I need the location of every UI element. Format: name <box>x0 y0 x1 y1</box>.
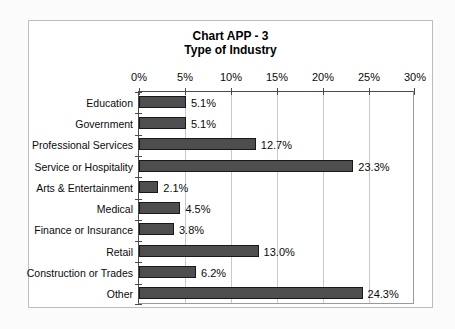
x-axis-tick-label: 10% <box>220 71 242 83</box>
gridline-15% <box>277 92 278 303</box>
y-tick-mark <box>135 220 142 221</box>
x-tick-mark <box>369 88 370 95</box>
scanned-page: Chart APP - 3 Type of Industry 0%5%10%15… <box>0 0 455 329</box>
y-tick-mark <box>135 284 142 285</box>
y-tick-mark <box>135 262 142 263</box>
x-axis-tick-label: 25% <box>358 71 380 83</box>
x-axis-tick-label: 30% <box>404 71 426 83</box>
y-tick-mark <box>135 92 142 93</box>
category-label: Government <box>24 113 133 134</box>
x-axis-tick-label: 0% <box>131 71 147 83</box>
x-tick-mark <box>231 88 232 95</box>
plot-area: 0%5%10%15%20%25%30%Education5.1%Governme… <box>138 91 414 304</box>
value-label: 6.2% <box>201 262 226 283</box>
chart-title: Chart APP - 3 <box>29 29 432 43</box>
y-tick-mark <box>135 304 142 305</box>
category-label: Finance or Insurance <box>24 220 133 241</box>
value-label: 5.1% <box>191 92 216 113</box>
x-axis-tick-label: 15% <box>266 71 288 83</box>
bar <box>139 202 180 214</box>
bar <box>139 287 363 299</box>
x-tick-mark <box>414 88 415 95</box>
x-tick-mark <box>185 88 186 95</box>
y-tick-mark <box>135 241 142 242</box>
value-label: 24.3% <box>368 284 399 305</box>
value-label: 5.1% <box>191 113 216 134</box>
bar <box>139 138 256 150</box>
chart-frame: Chart APP - 3 Type of Industry 0%5%10%15… <box>28 20 433 308</box>
bar <box>139 96 186 108</box>
value-label: 12.7% <box>261 135 292 156</box>
y-tick-mark <box>135 156 142 157</box>
bar <box>139 223 174 235</box>
value-label: 23.3% <box>358 156 389 177</box>
value-label: 13.0% <box>264 241 295 262</box>
x-tick-mark <box>277 88 278 95</box>
x-axis-tick-label: 5% <box>177 71 193 83</box>
gridline-10% <box>231 92 232 303</box>
bar <box>139 266 196 278</box>
bar <box>139 181 158 193</box>
category-label: Retail <box>24 241 133 262</box>
y-tick-mark <box>135 177 142 178</box>
value-label: 3.8% <box>179 220 204 241</box>
category-label: Construction or Trades <box>24 262 133 283</box>
bar <box>139 117 186 129</box>
bar <box>139 245 259 257</box>
category-label: Service or Hospitality <box>24 156 133 177</box>
gridline-20% <box>323 92 324 303</box>
value-label: 4.5% <box>185 199 210 220</box>
category-label: Other <box>24 284 133 305</box>
y-tick-mark <box>135 135 142 136</box>
value-label: 2.1% <box>163 177 188 198</box>
bar <box>139 160 353 172</box>
category-label: Professional Services <box>24 135 133 156</box>
category-label: Education <box>24 92 133 113</box>
category-label: Medical <box>24 199 133 220</box>
y-tick-mark <box>135 199 142 200</box>
x-tick-mark <box>323 88 324 95</box>
gridline-25% <box>369 92 370 303</box>
x-axis-tick-label: 20% <box>312 71 334 83</box>
y-tick-mark <box>135 113 142 114</box>
chart-subtitle: Type of Industry <box>29 43 432 57</box>
category-label: Arts & Entertainment <box>24 177 133 198</box>
